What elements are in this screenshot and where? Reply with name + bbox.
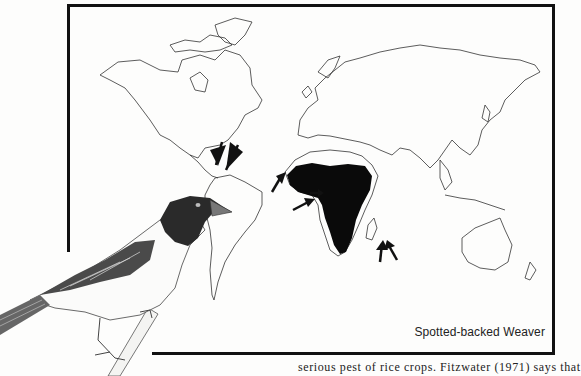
indonesia (445, 195, 505, 210)
japan (482, 105, 490, 122)
body-text-line: serious pest of rice crops. Fitzwater (1… (298, 360, 581, 375)
british-isles (302, 86, 312, 98)
central-america (190, 155, 218, 178)
madagascar (366, 218, 377, 240)
species-range-fill (287, 163, 372, 254)
eurasia-outline (298, 45, 540, 168)
australia-outline (462, 218, 512, 270)
southeast-asia (440, 160, 452, 190)
arrow-icon (226, 142, 243, 170)
arrow-icon (272, 172, 286, 192)
bird-tail (0, 295, 50, 335)
greenland-outline (215, 18, 252, 45)
arctic-islands (170, 35, 232, 52)
north-america-outline (100, 50, 262, 158)
bird-illustration (0, 190, 250, 376)
bird-beak (210, 200, 232, 216)
arrow-icon (293, 198, 315, 210)
hudson-bay (190, 72, 208, 92)
bird-eye (196, 203, 201, 207)
new-zealand (525, 262, 536, 280)
figure-caption: Spotted-backed Weaver (414, 325, 545, 339)
